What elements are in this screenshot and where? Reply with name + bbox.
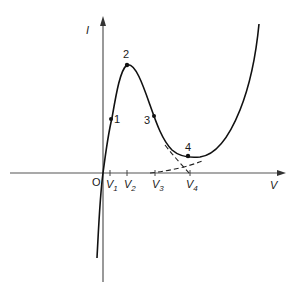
point-4-marker — [186, 154, 190, 158]
point-1-label: 1 — [114, 113, 120, 125]
y-axis-arrow-icon — [100, 16, 106, 26]
point-3-marker — [152, 114, 156, 118]
point-3-label: 3 — [144, 114, 150, 126]
x-axis-arrow-icon — [277, 170, 286, 176]
tick-label-v3: V3 — [152, 178, 164, 193]
y-axis-label: I — [86, 24, 89, 36]
tick-label-v1: V1 — [106, 178, 118, 193]
origin-label: O — [92, 176, 101, 188]
tick-label-v4: V4 — [186, 178, 198, 193]
iv-curve — [97, 24, 259, 258]
point-2-label: 2 — [123, 48, 129, 60]
point-4-label: 4 — [185, 141, 191, 153]
x-axis-label: V — [270, 179, 279, 191]
tick-label-v2: V2 — [124, 178, 136, 193]
dashed-diffusion-current — [150, 161, 202, 173]
point-1-marker — [109, 117, 113, 121]
iv-characteristic-diagram: 1 2 3 4 I V O V1 V2 V3 V4 — [0, 0, 294, 291]
axes — [10, 16, 286, 282]
point-2-marker — [125, 63, 129, 67]
